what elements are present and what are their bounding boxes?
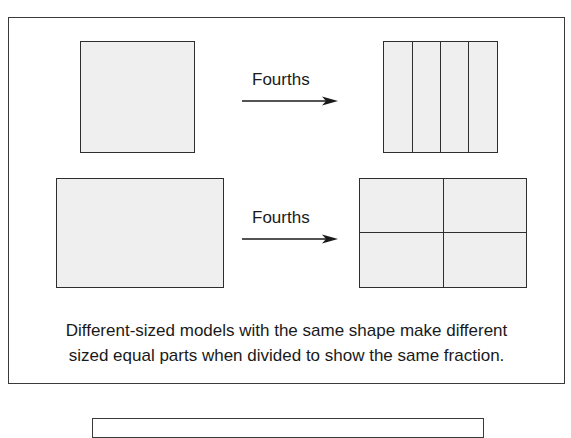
original-rectangle — [56, 178, 224, 288]
right-arrow-icon — [242, 234, 338, 244]
strip-divider — [412, 42, 413, 152]
arrow-row-1: Fourths — [242, 70, 338, 110]
figure-caption: Different-sized models with the same sha… — [8, 318, 565, 368]
right-arrow-icon — [242, 96, 338, 106]
divided-square-fourths — [383, 41, 498, 153]
arrow-label-row-1: Fourths — [252, 70, 310, 90]
grid-divider-vertical — [443, 179, 444, 287]
next-figure-frame — [92, 418, 484, 438]
caption-line-2: sized equal parts when divided to show t… — [8, 343, 565, 368]
strip-divider — [440, 42, 441, 152]
caption-line-1: Different-sized models with the same sha… — [8, 318, 565, 343]
strip-divider — [468, 42, 469, 152]
arrow-label-row-2: Fourths — [252, 208, 310, 228]
original-square — [80, 41, 195, 153]
divided-rectangle-fourths — [359, 178, 527, 288]
arrow-row-2: Fourths — [242, 208, 338, 248]
grid-divider-horizontal — [360, 232, 526, 233]
